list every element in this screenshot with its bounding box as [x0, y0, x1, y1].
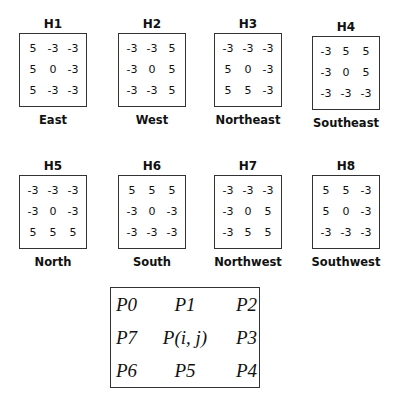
matrix-cell: -3: [223, 206, 234, 218]
kernel-h2: H2-3-35-305-3-35West: [107, 17, 197, 127]
matrix-cell: 5: [343, 185, 350, 197]
matrix-cell: -3: [243, 185, 254, 197]
matrix-cell: -3: [28, 185, 39, 197]
matrix-cell: 0: [50, 64, 57, 76]
matrix-cell: -3: [127, 227, 138, 239]
matrix-cell: 0: [343, 67, 350, 79]
neighbor-p4: P4: [214, 360, 259, 382]
matrix-cell: -3: [361, 88, 372, 100]
matrix-cell: -3: [321, 46, 332, 58]
kernel-direction-label: Southwest: [301, 255, 391, 269]
matrix-cell: -3: [28, 206, 39, 218]
kernel-title: H4: [301, 20, 391, 34]
kernel-h8: H855-350-3-3-3-3Southwest: [301, 159, 391, 269]
matrix-cell: 5: [245, 85, 252, 97]
matrix-cell: -3: [127, 43, 138, 55]
kernel-direction-label: Northeast: [203, 113, 293, 127]
center-pixel: P(i, j): [156, 327, 214, 349]
neighbor-p1: P1: [156, 294, 214, 316]
matrix-cell: -3: [361, 185, 372, 197]
matrix-cell: 5: [30, 64, 37, 76]
kernel-matrix: 555-30-3-3-3-3: [118, 175, 186, 249]
matrix-cell: 5: [129, 185, 136, 197]
matrix-cell: -3: [263, 64, 274, 76]
neighbor-p0: P0: [111, 294, 156, 316]
matrix-cell: -3: [361, 206, 372, 218]
kernel-direction-label: West: [107, 113, 197, 127]
matrix-cell: 5: [343, 46, 350, 58]
matrix-cell: -3: [147, 43, 158, 55]
kernel-h7: H7-3-3-3-305-355Northwest: [203, 159, 293, 269]
kernel-matrix: 5-3-350-35-3-3: [19, 33, 87, 107]
neighbor-p7: P7: [111, 327, 156, 349]
kernel-matrix: -3-3-3-30-3555: [19, 175, 87, 249]
matrix-cell: 0: [245, 206, 252, 218]
neighbor-p6: P6: [111, 360, 156, 382]
kernel-matrix: -3-3-3-305-355: [214, 175, 282, 249]
kernel-title: H5: [8, 159, 98, 173]
neighbor-p3: P3: [214, 327, 259, 349]
kernel-h3: H3-3-3-350-355-3Northeast: [203, 17, 293, 127]
matrix-cell: 5: [323, 206, 330, 218]
matrix-cell: 5: [169, 185, 176, 197]
matrix-cell: -3: [263, 43, 274, 55]
kernel-h4: H4-355-305-3-3-3Southeast: [301, 20, 391, 130]
matrix-cell: -3: [243, 43, 254, 55]
kernel-matrix: 55-350-3-3-3-3: [312, 175, 380, 249]
matrix-cell: 0: [245, 64, 252, 76]
matrix-cell: -3: [68, 43, 79, 55]
matrix-cell: -3: [68, 206, 79, 218]
matrix-cell: -3: [48, 185, 59, 197]
matrix-cell: -3: [147, 227, 158, 239]
kernel-direction-label: Northwest: [203, 255, 293, 269]
matrix-cell: 5: [30, 43, 37, 55]
matrix-cell: 0: [50, 206, 57, 218]
neighbor-p2: P2: [214, 294, 259, 316]
matrix-cell: 5: [225, 64, 232, 76]
matrix-cell: 5: [149, 185, 156, 197]
matrix-cell: 5: [363, 46, 370, 58]
matrix-cell: -3: [68, 64, 79, 76]
kernel-h5: H5-3-3-3-30-3555North: [8, 159, 98, 269]
matrix-cell: 5: [225, 85, 232, 97]
matrix-cell: -3: [341, 88, 352, 100]
matrix-cell: 0: [149, 64, 156, 76]
matrix-cell: 5: [70, 227, 77, 239]
matrix-cell: 5: [30, 227, 37, 239]
matrix-cell: 5: [265, 227, 272, 239]
kernel-direction-label: South: [107, 255, 197, 269]
matrix-cell: -3: [68, 185, 79, 197]
matrix-cell: 5: [169, 64, 176, 76]
kernel-matrix: -3-35-305-3-35: [118, 33, 186, 107]
kernel-title: H3: [203, 17, 293, 31]
matrix-cell: -3: [147, 85, 158, 97]
matrix-cell: 5: [50, 227, 57, 239]
matrix-cell: -3: [167, 227, 178, 239]
matrix-cell: 5: [265, 206, 272, 218]
kernel-title: H1: [8, 17, 98, 31]
kernel-direction-label: North: [8, 255, 98, 269]
matrix-cell: 0: [149, 206, 156, 218]
matrix-cell: -3: [127, 64, 138, 76]
kernel-title: H6: [107, 159, 197, 173]
matrix-cell: 5: [169, 43, 176, 55]
kernel-matrix: -355-305-3-3-3: [312, 36, 380, 110]
matrix-cell: -3: [341, 227, 352, 239]
matrix-cell: -3: [68, 85, 79, 97]
matrix-cell: -3: [321, 227, 332, 239]
matrix-cell: -3: [223, 227, 234, 239]
matrix-cell: -3: [321, 67, 332, 79]
kernel-title: H7: [203, 159, 293, 173]
matrix-cell: -3: [223, 185, 234, 197]
matrix-cell: 5: [323, 185, 330, 197]
matrix-cell: -3: [127, 85, 138, 97]
kernel-h1: H15-3-350-35-3-3East: [8, 17, 98, 127]
kernel-matrix: -3-3-350-355-3: [214, 33, 282, 107]
matrix-cell: -3: [361, 227, 372, 239]
matrix-cell: 5: [169, 85, 176, 97]
matrix-cell: -3: [321, 88, 332, 100]
kernel-direction-label: Southeast: [301, 116, 391, 130]
pixel-neighborhood-grid: P0 P1 P2 P7 P(i, j) P3 P6 P5 P4: [110, 287, 260, 388]
matrix-cell: 5: [245, 227, 252, 239]
matrix-cell: -3: [48, 85, 59, 97]
